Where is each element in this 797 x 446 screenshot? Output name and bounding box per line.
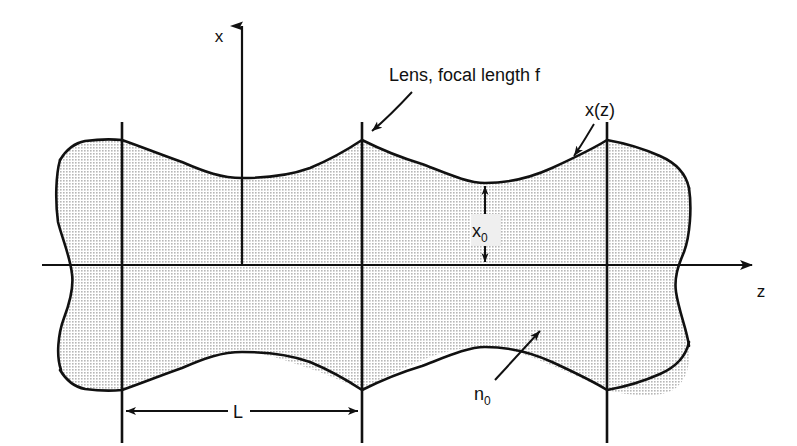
index-label-subscript: 0	[484, 394, 491, 408]
lens-waveguide-figure: x z Lens, focal length f x(z) x0 n0	[0, 0, 797, 446]
lens-annotation: Lens, focal length f	[372, 65, 541, 131]
period-dimension: L	[126, 402, 358, 422]
x-axis-label: x	[215, 27, 224, 46]
figure-canvas: x z Lens, focal length f x(z) x0 n0	[0, 0, 797, 446]
lens-annotation-leader-arrow	[372, 92, 412, 131]
beam-radius-label-main: x	[472, 221, 481, 241]
ray-annotation-label: x(z)	[585, 100, 615, 120]
medium-region	[56, 139, 690, 395]
z-axis-label: z	[757, 282, 766, 301]
lens-annotation-label: Lens, focal length f	[389, 65, 541, 85]
beam-radius-label-subscript: 0	[481, 231, 488, 245]
index-label-main: n	[474, 384, 484, 404]
medium-fill	[56, 139, 690, 395]
period-label: L	[233, 402, 243, 422]
index-label: n0	[474, 384, 491, 408]
